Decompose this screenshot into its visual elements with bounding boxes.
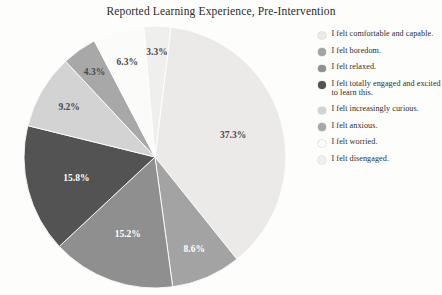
pie-slice-value-label: 9.2% — [58, 102, 79, 112]
chart-page: Reported Learning Experience, Pre-Interv… — [0, 0, 442, 295]
legend-color-swatch-icon — [318, 107, 326, 115]
legend-item[interactable]: I felt increasingly curious. — [318, 104, 442, 114]
pie-slice-value-label: 37.3% — [220, 130, 246, 140]
legend-item[interactable]: I felt relaxed. — [318, 62, 442, 72]
legend-item-label: I felt disengaged. — [332, 154, 390, 164]
legend-item[interactable]: I felt totally engaged and excited to le… — [318, 79, 442, 98]
legend-item[interactable]: I felt anxious. — [318, 121, 442, 131]
legend-item[interactable]: I felt comfortable and capable. — [318, 29, 442, 39]
pie-slice-value-label: 15.2% — [115, 229, 141, 239]
legend-item-label: I felt relaxed. — [332, 62, 377, 72]
pie-slice-value-label: 3.3% — [146, 47, 167, 57]
pie-slice-group — [24, 26, 286, 288]
legend-color-swatch-icon — [318, 65, 326, 73]
chart-legend: I felt comfortable and capable.I felt bo… — [318, 29, 442, 170]
pie-slice-value-label: 15.8% — [63, 173, 89, 183]
legend-item-label: I felt comfortable and capable. — [332, 29, 434, 39]
legend-item-label: I felt anxious. — [332, 121, 378, 131]
legend-item-label: I felt worried. — [332, 137, 378, 147]
legend-item[interactable]: I felt disengaged. — [318, 154, 442, 164]
legend-color-swatch-icon — [318, 32, 326, 40]
legend-item-label: I felt increasingly curious. — [332, 104, 419, 114]
legend-color-swatch-icon — [318, 156, 326, 164]
legend-color-swatch-icon — [318, 81, 326, 89]
legend-color-swatch-icon — [318, 123, 326, 131]
legend-item[interactable]: I felt worried. — [318, 137, 442, 147]
legend-color-swatch-icon — [318, 48, 326, 56]
legend-color-swatch-icon — [318, 140, 326, 148]
pie-slice-value-label: 8.6% — [184, 244, 205, 254]
legend-item-label: I felt totally engaged and excited to le… — [332, 79, 442, 98]
page-title: Reported Learning Experience, Pre-Interv… — [0, 5, 442, 17]
pie-chart: 37.3%8.6%15.2%15.8%9.2%4.3%6.3%3.3% — [22, 24, 288, 290]
pie-slice-value-label: 6.3% — [117, 57, 138, 67]
pie-chart-svg: 37.3%8.6%15.2%15.8%9.2%4.3%6.3%3.3% — [22, 24, 288, 290]
pie-slice-value-label: 4.3% — [84, 67, 105, 77]
legend-item-label: I felt boredom. — [332, 46, 382, 56]
legend-item[interactable]: I felt boredom. — [318, 46, 442, 56]
